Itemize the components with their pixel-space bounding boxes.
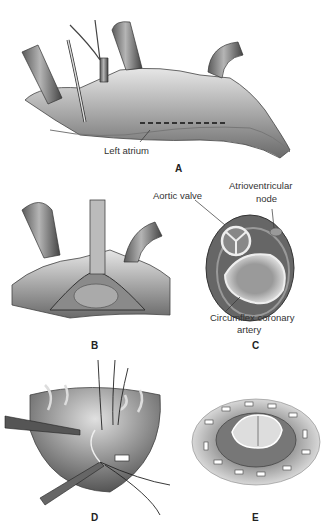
label-av-node-1: Atrioventricular	[229, 180, 292, 191]
label-aortic-valve: Aortic valve	[153, 190, 202, 201]
label-circumflex-2: artery	[237, 324, 261, 335]
panel-label-c: C	[252, 340, 259, 351]
label-av-node-2: node	[256, 193, 277, 204]
surgical-illustration	[0, 0, 335, 529]
panel-label-a: A	[175, 163, 182, 174]
panel-label-d: D	[91, 512, 98, 523]
panel-d-drawing	[5, 360, 170, 515]
label-left-atrium: Left atrium	[104, 145, 149, 156]
panel-a-drawing	[22, 20, 290, 158]
panel-b-drawing	[12, 200, 170, 318]
label-circumflex-1: Circumflex coronary	[210, 312, 294, 323]
panel-c-drawing	[195, 200, 294, 321]
panel-e-drawing	[192, 399, 320, 485]
panel-label-b: B	[91, 340, 98, 351]
panel-label-e: E	[252, 512, 259, 523]
